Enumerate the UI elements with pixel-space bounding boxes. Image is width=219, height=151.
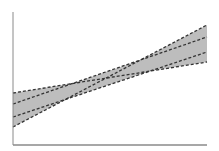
dashed-line-2 [13,37,207,104]
dashed-line-3 [13,52,207,117]
chart [0,0,219,151]
